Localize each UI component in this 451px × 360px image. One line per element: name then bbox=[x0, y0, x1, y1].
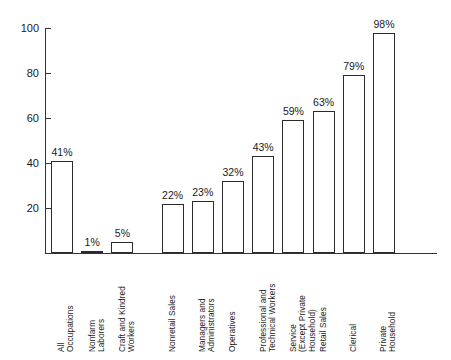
x-axis-category-label: Clerical bbox=[349, 260, 358, 352]
bar bbox=[222, 181, 244, 253]
bar bbox=[282, 120, 304, 253]
y-axis-tick-label: 60 bbox=[6, 113, 39, 124]
y-axis-tick-label: 20 bbox=[6, 203, 39, 214]
bar bbox=[343, 75, 365, 253]
y-axis-tick-label: 100 bbox=[6, 23, 39, 34]
y-axis-tick-label-text: 60 bbox=[11, 113, 39, 124]
y-axis-tick-label-text: 80 bbox=[11, 68, 39, 79]
y-axis-line bbox=[45, 28, 46, 254]
x-axis-line bbox=[45, 253, 437, 254]
bar-value-label: 5% bbox=[102, 228, 142, 239]
bar bbox=[111, 242, 133, 253]
y-axis-tick-mark bbox=[45, 118, 51, 119]
bar-value-label: 41% bbox=[42, 147, 82, 158]
y-axis-tick-label-text: 20 bbox=[11, 203, 39, 214]
x-axis-category-label: Craft and Kindred Workers bbox=[118, 260, 137, 352]
x-axis-category-label: Service (Except Private Household) bbox=[289, 260, 317, 352]
x-axis-category-label: Professional and Technical Workers bbox=[259, 260, 278, 352]
x-axis-category-label: Nonretail Sales bbox=[168, 260, 177, 352]
bar-value-label: 79% bbox=[334, 61, 374, 72]
bar-value-label: 23% bbox=[183, 187, 223, 198]
y-axis-tick-label: 80 bbox=[6, 68, 39, 79]
y-axis-tick-mark bbox=[45, 73, 51, 74]
bar-value-label: 43% bbox=[243, 142, 283, 153]
bar-value-label: 32% bbox=[213, 167, 253, 178]
x-axis-category-label: Managers and Administrators bbox=[198, 260, 217, 352]
y-axis-tick-label-text: 40 bbox=[11, 158, 39, 169]
bar bbox=[192, 201, 214, 253]
y-axis-tick-label-text: 100 bbox=[11, 23, 39, 34]
x-axis-category-label: Private Household bbox=[379, 260, 398, 352]
bar bbox=[81, 251, 103, 253]
bar bbox=[162, 204, 184, 254]
y-axis-tick-label: 40 bbox=[6, 158, 39, 169]
y-axis-tick-mark bbox=[45, 28, 51, 29]
bar bbox=[252, 156, 274, 253]
x-axis-category-label: All Occupations bbox=[57, 260, 76, 352]
bar bbox=[313, 111, 335, 253]
bar-value-label: 98% bbox=[364, 19, 404, 30]
bar-chart: 10080604020 41%1%5%22%23%32%43%59%63%79%… bbox=[0, 0, 451, 360]
x-axis-category-label: Retail Sales bbox=[319, 260, 328, 352]
x-axis-category-label: Operatives bbox=[228, 260, 237, 352]
bar bbox=[373, 33, 395, 254]
bar bbox=[51, 161, 73, 253]
bar-value-label: 63% bbox=[304, 97, 344, 108]
plot-area: 10080604020 41%1%5%22%23%32%43%59%63%79%… bbox=[0, 0, 451, 360]
x-axis-category-label: Nonfarm Laborers bbox=[88, 260, 107, 352]
